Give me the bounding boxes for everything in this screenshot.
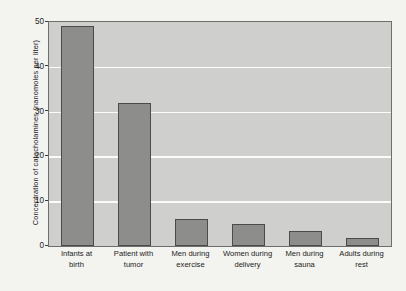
x-label-line: exercise bbox=[162, 260, 219, 271]
x-label-line: Patient with bbox=[105, 249, 162, 260]
bar-series bbox=[49, 22, 391, 246]
x-label-line: Men during bbox=[162, 249, 219, 260]
bar-0 bbox=[61, 26, 93, 246]
bar-2 bbox=[175, 219, 207, 246]
bar-chart-figure: Concentration of catecholamines (nanomol… bbox=[0, 0, 406, 291]
bar-3 bbox=[232, 224, 264, 246]
y-tick-0: 0 bbox=[22, 241, 44, 250]
x-label-line: Adults during bbox=[333, 249, 390, 260]
x-label-line: Infants at bbox=[48, 249, 105, 260]
bar-5 bbox=[346, 238, 378, 246]
y-tick-50: 50 bbox=[22, 17, 44, 26]
y-tick-30: 30 bbox=[22, 106, 44, 115]
x-label-line: delivery bbox=[219, 260, 276, 271]
x-label-2: Men duringexercise bbox=[162, 249, 219, 270]
y-tick-10: 10 bbox=[22, 196, 44, 205]
y-tick-20: 20 bbox=[22, 151, 44, 160]
x-label-3: Women duringdelivery bbox=[219, 249, 276, 270]
y-tick-40: 40 bbox=[22, 61, 44, 70]
x-label-line: tumor bbox=[105, 260, 162, 271]
x-label-1: Patient withtumor bbox=[105, 249, 162, 270]
x-axis-tick-labels: Infants atbirthPatient withtumorMen duri… bbox=[48, 249, 390, 289]
x-label-line: sauna bbox=[276, 260, 333, 271]
x-label-4: Men duringsauna bbox=[276, 249, 333, 270]
x-label-line: Men during bbox=[276, 249, 333, 260]
x-label-line: birth bbox=[48, 260, 105, 271]
y-axis-tick-labels: 01020304050 bbox=[22, 0, 44, 291]
plot-area bbox=[48, 21, 392, 247]
x-label-line: Women during bbox=[219, 249, 276, 260]
x-label-line: rest bbox=[333, 260, 390, 271]
bar-4 bbox=[289, 231, 321, 246]
bar-1 bbox=[118, 103, 150, 246]
x-label-0: Infants atbirth bbox=[48, 249, 105, 270]
x-label-5: Adults duringrest bbox=[333, 249, 390, 270]
